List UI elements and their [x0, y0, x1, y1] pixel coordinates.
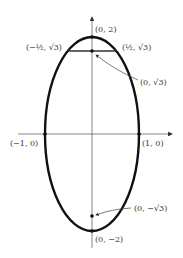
focus-top-point — [90, 49, 94, 53]
left-vertex-label: (−1, 0) — [10, 139, 38, 148]
right-vertex-point — [137, 132, 141, 136]
right-vertex-label: (1, 0) — [142, 139, 164, 148]
bottom-vertex-point — [90, 229, 94, 233]
focus-top-pointer — [96, 55, 138, 80]
focus-bottom-pointer — [96, 208, 131, 215]
ellipse-diagram: (0, 2) (−½, √3) (½, √3) (0, √3) (−1, 0) … — [0, 0, 183, 258]
top-vertex-point — [90, 35, 94, 39]
left-vertex-point — [43, 132, 47, 136]
bottom-vertex-label: (0, −2) — [95, 235, 123, 244]
focus-top-label: (0, √3) — [140, 78, 167, 87]
focus-bottom-label: (0, −√3) — [134, 204, 167, 213]
top-vertex-label: (0, 2) — [95, 25, 117, 34]
chord-right-label: (½, √3) — [122, 43, 151, 52]
chord-left-label: (−½, √3) — [26, 43, 62, 52]
focus-bottom-point — [90, 214, 94, 218]
